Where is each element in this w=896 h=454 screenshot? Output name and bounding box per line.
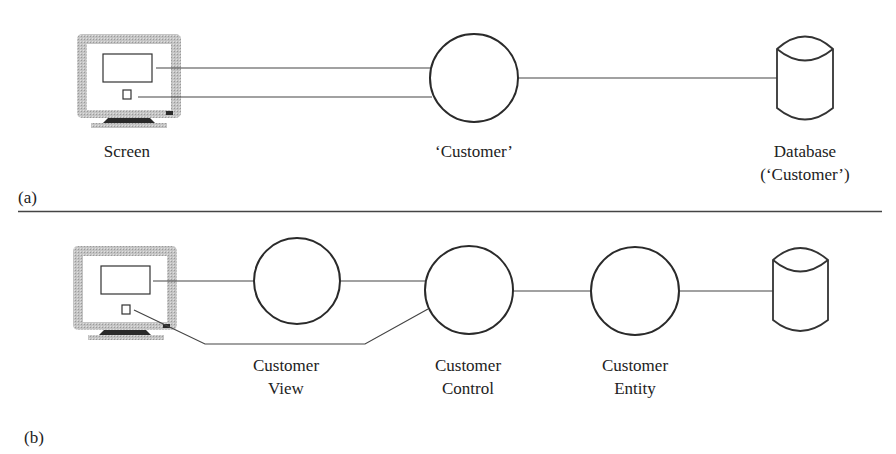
customer-entity-label-line2: Entity [614,379,656,398]
customer-object-label: ‘Customer’ [435,142,513,161]
customer-view-label-line2: View [268,379,305,398]
database-label-line1: Database [774,142,836,161]
button-rect-icon [122,305,130,314]
customer-object-circle [430,34,518,122]
monitor-icon [77,34,181,128]
customer-entity-label-line1: Customer [602,356,668,375]
monitor-icon [73,246,177,340]
window-rect-icon [101,266,150,294]
diagram-canvas: Screen ‘Customer’ Database (‘Customer’) … [0,0,896,454]
button-rect-icon [123,90,131,99]
customer-view-circle [254,238,340,324]
panel-b-label: (b) [24,428,44,447]
customer-control-label-line1: Customer [435,356,501,375]
database-label-line2: (‘Customer’) [760,165,849,184]
panel-a-label: (a) [18,188,37,207]
panel-a: Screen ‘Customer’ Database (‘Customer’) … [18,34,850,207]
customer-entity-circle [591,247,679,335]
window-rect-icon [103,54,152,82]
panel-b: Customer View Customer Control Customer … [24,238,828,447]
screen-label: Screen [104,142,151,161]
database-cylinder-icon [777,37,833,120]
customer-view-label-line1: Customer [253,356,319,375]
customer-control-label-line2: Control [442,379,494,398]
customer-control-circle [425,246,513,334]
database-cylinder-icon [773,248,828,331]
